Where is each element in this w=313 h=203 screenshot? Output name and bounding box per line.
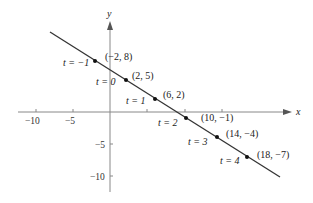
- t-label: t = 4: [220, 155, 240, 166]
- coord-label: (−2, 8): [105, 51, 132, 63]
- y-tick-label: −5: [95, 140, 105, 150]
- x-axis-arrow-icon: [283, 109, 292, 115]
- t-label: t = 3: [188, 136, 208, 147]
- t-label: t = 2: [158, 117, 178, 128]
- data-point: [153, 97, 157, 101]
- coord-label: (18, −7): [257, 149, 289, 161]
- coord-label: (2, 5): [132, 70, 154, 82]
- parametric-line: [50, 32, 280, 177]
- y-axis-label: y: [106, 8, 112, 19]
- data-point: [124, 78, 128, 82]
- t-label: t = 1: [126, 95, 146, 106]
- data-point: [215, 135, 219, 139]
- t-label: t = −1: [63, 57, 89, 68]
- x-axis-label: x: [295, 106, 301, 117]
- y-axis-arrow-icon: [107, 21, 113, 30]
- coord-label: (6, 2): [163, 89, 185, 101]
- data-point: [245, 155, 249, 159]
- parametric-line-chart: x y −10 −5 −5 −10 t = −1 t = 0 t = 1 t =…: [0, 0, 313, 203]
- coord-label: (14, −4): [226, 128, 258, 140]
- x-tick-label: −10: [25, 116, 40, 126]
- coord-label: (10, −1): [201, 112, 233, 124]
- data-point: [93, 59, 97, 63]
- x-tick-label: −5: [65, 116, 75, 126]
- t-label: t = 0: [96, 76, 116, 87]
- axes: x y −10 −5 −5 −10: [18, 8, 301, 192]
- y-tick-label: −10: [90, 172, 105, 182]
- data-point: [184, 116, 188, 120]
